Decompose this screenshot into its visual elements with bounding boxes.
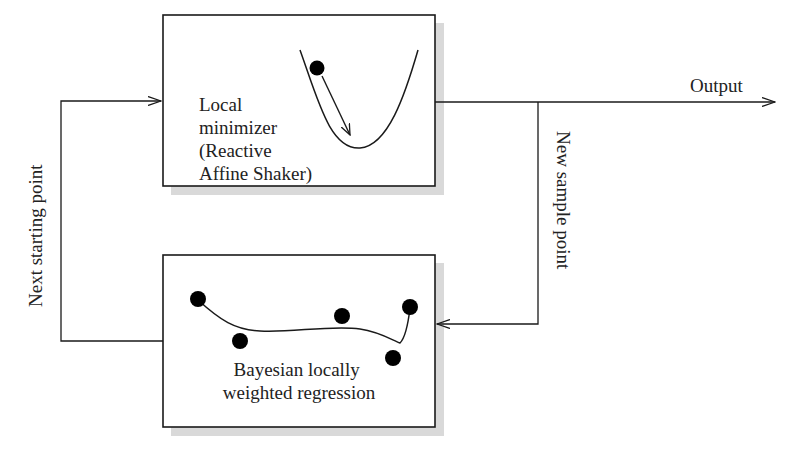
local-minimizer-box: Local minimizer (Reactive Affine Shaker) <box>163 15 444 195</box>
diagram-canvas: Local minimizer (Reactive Affine Shaker)… <box>0 0 801 455</box>
output-label: Output <box>690 75 744 96</box>
new-sample-label: New sample point <box>553 131 574 270</box>
regression-box: Bayesian locally weighted regression <box>163 255 444 436</box>
data-point-icon <box>232 333 248 349</box>
label-line-2: minimizer <box>199 117 278 138</box>
label-line-4: Affine Shaker) <box>199 163 312 185</box>
label-line-2: weighted regression <box>223 382 376 403</box>
next-start-arrow <box>61 101 163 341</box>
ball-icon <box>310 61 325 76</box>
data-point-icon <box>385 350 401 366</box>
label-line-1: Bayesian locally <box>234 359 361 380</box>
label-line-3: (Reactive <box>199 140 272 162</box>
data-point-icon <box>402 299 418 315</box>
data-point-icon <box>334 308 350 324</box>
data-point-icon <box>190 291 206 307</box>
label-line-1: Local <box>199 94 242 115</box>
next-start-label: Next starting point <box>25 164 46 307</box>
new-sample-arrow <box>437 102 538 324</box>
